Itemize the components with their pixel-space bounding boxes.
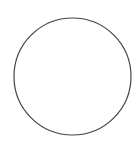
diagram-canvas: [0, 0, 136, 142]
circle-shape: [14, 18, 131, 135]
